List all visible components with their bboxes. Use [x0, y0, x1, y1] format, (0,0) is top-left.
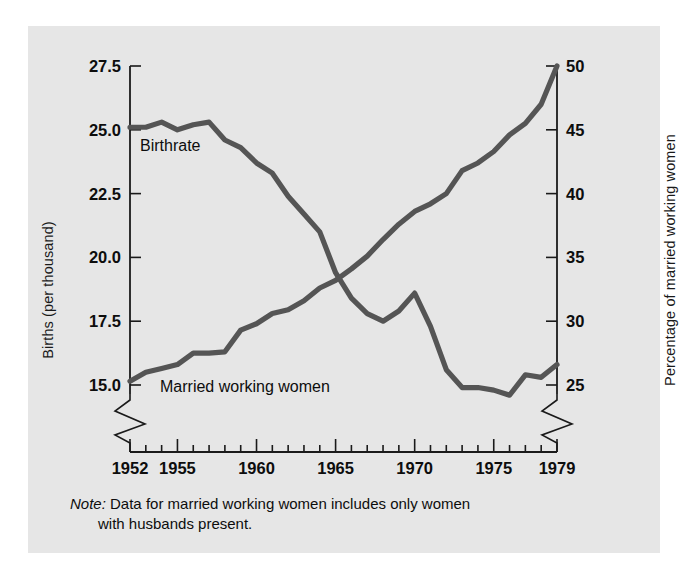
ytick-right-2: 40 [566, 185, 610, 204]
ytick-left-5: 15.0 [61, 376, 121, 395]
note-line-1: Data for married working women includes … [106, 495, 470, 512]
ytick-left-4: 17.5 [61, 312, 121, 331]
chart-plot-area [0, 0, 693, 578]
xtick-3: 1965 [301, 459, 371, 478]
note-keyword: Note: [70, 495, 106, 512]
xtick-5: 1975 [459, 459, 529, 478]
series-label-married-working-women: Married working women [160, 378, 330, 396]
ytick-right-3: 35 [566, 248, 610, 267]
ytick-right-5: 25 [566, 376, 610, 395]
ytick-right-4: 30 [566, 312, 610, 331]
ytick-left-2: 22.5 [61, 185, 121, 204]
ytick-left-3: 20.0 [61, 248, 121, 267]
xtick-1: 1955 [142, 459, 212, 478]
xtick-2: 1960 [222, 459, 292, 478]
series-label-birthrate: Birthrate [140, 137, 200, 155]
xtick-4: 1970 [380, 459, 450, 478]
ytick-right-1: 45 [566, 121, 610, 140]
ytick-left-1: 25.0 [61, 121, 121, 140]
chart-series [130, 66, 557, 395]
xtick-6: 1979 [522, 459, 592, 478]
y-axis-left-title: Births (per thousand) [40, 160, 56, 420]
chart-figure: Births (per thousand) Percentage of marr… [0, 0, 693, 578]
note-line-2: with husbands present. [70, 514, 615, 534]
ytick-right-0: 50 [566, 57, 610, 76]
ytick-left-0: 27.5 [61, 57, 121, 76]
chart-note: Note: Data for married working women inc… [70, 494, 615, 535]
y-axis-right-title: Percentage of married working women [662, 110, 678, 410]
